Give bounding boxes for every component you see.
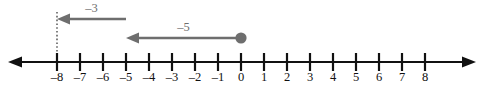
axis-tick-label: –7 [73,70,87,84]
start-point-layer [235,32,246,43]
axis-tick-label: 5 [353,70,359,84]
axis-tick-label: –2 [188,70,202,84]
jump-arrowhead [126,33,139,44]
axis-tick-label: 6 [376,70,382,84]
axis-tick-label: 0 [238,70,244,84]
axis-tick-label: –5 [119,70,133,84]
axis-tick-label: 1 [261,70,267,84]
jump-arrowhead [57,14,70,25]
axis-tick-label: 4 [330,70,337,84]
jump-arrow-label: –3 [84,1,98,15]
axis-tick-label: –6 [96,70,110,84]
jump-label-layer: –5–3 [84,1,190,34]
axis-tick-label: 3 [307,70,313,84]
axis-tick-label: 7 [399,70,405,84]
jump-arrow-label: –5 [176,20,190,34]
axis-tick-label: –1 [211,70,225,84]
axis-tick-label: 8 [422,70,428,84]
axis-tick-label: –4 [142,70,156,84]
axis-tick-label: –8 [50,70,64,84]
start-point-dot [235,32,246,43]
axis-tick-label: 2 [284,70,290,84]
axis-tick-label: –3 [165,70,179,84]
tick-label-layer: –8–7–6–5–4–3–2–1012345678 [50,70,428,84]
jump-arrow-layer [57,14,241,44]
axis-arrowhead-left [8,57,22,68]
axis-arrowhead-right [462,57,476,68]
number-line-figure: –8–7–6–5–4–3–2–1012345678 –5–3 [0,0,484,91]
number-line-canvas: –8–7–6–5–4–3–2–1012345678 –5–3 [0,0,484,91]
